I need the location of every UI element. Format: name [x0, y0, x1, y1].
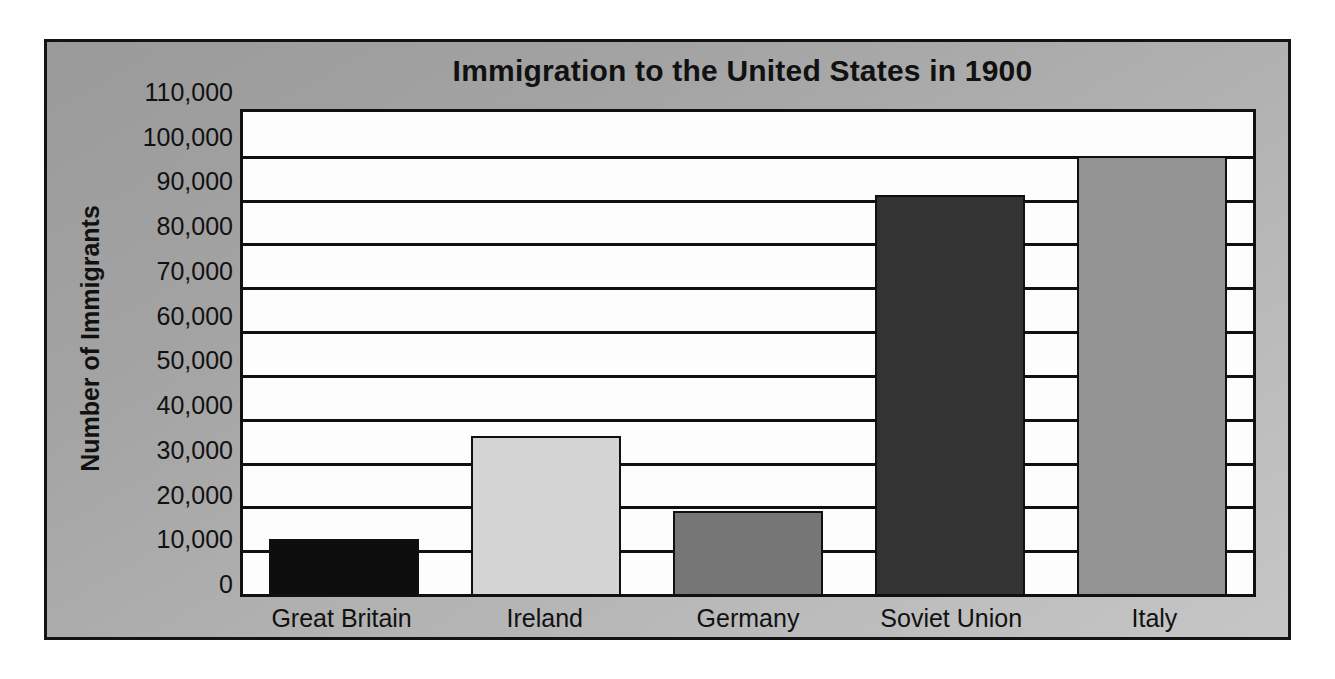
bar-slot [243, 112, 445, 594]
y-axis-tick-label: 100,000 [95, 122, 233, 151]
x-axis-tick-label: Great Britain [240, 604, 443, 633]
y-axis-tick-label: 110,000 [95, 78, 233, 107]
bar[interactable] [673, 511, 822, 594]
y-axis-tick-labels: 110,000100,00090,00080,00070,00060,00050… [95, 92, 233, 584]
y-axis-tick-label: 20,000 [95, 480, 233, 509]
y-axis-tick-label: 0 [95, 570, 233, 599]
y-axis-tick-label: 70,000 [95, 256, 233, 285]
x-axis-tick-label: Italy [1053, 604, 1256, 633]
y-axis-tick-label: 80,000 [95, 212, 233, 241]
bar[interactable] [269, 539, 418, 594]
bar-series [243, 112, 1253, 594]
plot-area [240, 109, 1256, 597]
y-axis-tick-label: 40,000 [95, 391, 233, 420]
bar-slot [849, 112, 1051, 594]
x-axis-tick-label: Germany [646, 604, 849, 633]
chart-figure: Immigration to the United States in 1900… [44, 39, 1291, 640]
y-axis-tick-label: 90,000 [95, 167, 233, 196]
bar-slot [647, 112, 849, 594]
bar[interactable] [471, 436, 620, 594]
y-axis-tick-label: 10,000 [95, 525, 233, 554]
y-axis-tick-label: 50,000 [95, 346, 233, 375]
y-axis-tick-label: 30,000 [95, 435, 233, 464]
bar-slot [445, 112, 647, 594]
chart-title: Immigration to the United States in 1900 [47, 54, 1288, 88]
x-axis-tick-label: Soviet Union [850, 604, 1053, 633]
x-axis-tick-labels: Great BritainIrelandGermanySoviet UnionI… [240, 597, 1256, 640]
bar[interactable] [1077, 156, 1226, 594]
bar[interactable] [875, 195, 1024, 594]
bar-slot [1051, 112, 1253, 594]
y-axis-tick-label: 60,000 [95, 301, 233, 330]
x-axis-tick-label: Ireland [443, 604, 646, 633]
